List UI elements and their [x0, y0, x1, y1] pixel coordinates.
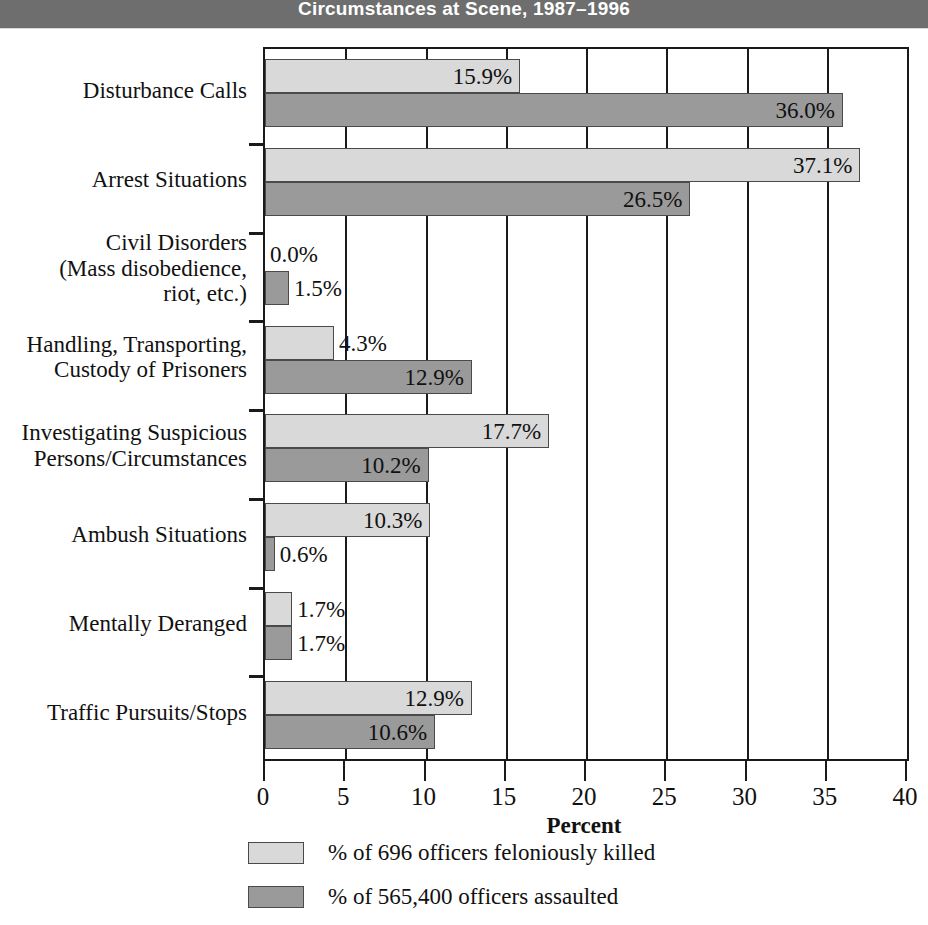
- bar-value-label: 26.5%: [623, 188, 682, 211]
- category-tick: [249, 232, 263, 235]
- category-label-column: Disturbance CallsArrest SituationsCivil …: [0, 47, 247, 757]
- x-tick-label: 15: [491, 783, 516, 811]
- category-label: Traffic Pursuits/Stops: [0, 700, 247, 726]
- category-label: Ambush Situations: [0, 522, 247, 548]
- x-tick-label: 25: [652, 783, 677, 811]
- category-tick: [249, 409, 263, 412]
- plot-area: 15.9%36.0%37.1%26.5%0.0%1.5%4.3%12.9%17.…: [263, 47, 909, 761]
- bar-value-label: 12.9%: [405, 365, 464, 388]
- chart-area: Disturbance CallsArrest SituationsCivil …: [0, 28, 928, 818]
- x-tick: [584, 759, 586, 781]
- legend-label: % of 696 officers feloniously killed: [328, 838, 655, 868]
- bar-value-label: 1.5%: [294, 276, 342, 299]
- legend-item: % of 565,400 officers assaulted: [0, 882, 928, 916]
- category-label: Handling, Transporting, Custody of Priso…: [0, 332, 247, 384]
- bar-killed: [265, 326, 334, 360]
- x-tick: [745, 759, 747, 781]
- category-tick: [249, 320, 263, 323]
- x-tick: [343, 759, 345, 781]
- x-tick-label: 30: [732, 783, 757, 811]
- bar-value-label: 36.0%: [775, 99, 834, 122]
- bar-assaulted: [265, 271, 289, 305]
- bar-value-label: 0.6%: [280, 543, 328, 566]
- bar-assaulted: [265, 626, 292, 660]
- bar-value-label: 1.7%: [297, 597, 345, 620]
- bar-assaulted: [265, 93, 843, 127]
- x-tick-label: 20: [572, 783, 597, 811]
- x-tick: [263, 759, 265, 781]
- x-tick: [424, 759, 426, 781]
- x-tick: [905, 759, 907, 781]
- legend-swatch-dark: [248, 886, 304, 908]
- category-label: Civil Disorders (Mass disobedience, riot…: [0, 230, 247, 307]
- x-axis: 0510152025303540: [263, 759, 905, 819]
- x-tick-label: 10: [411, 783, 436, 811]
- x-axis-title: Percent: [263, 813, 905, 839]
- bar-value-label: 10.3%: [363, 509, 422, 532]
- category-tick: [249, 587, 263, 590]
- x-tick-label: 0: [257, 783, 270, 811]
- category-label: Mentally Deranged: [0, 611, 247, 637]
- category-label: Investigating Suspicious Persons/Circums…: [0, 420, 247, 472]
- bar-killed: [265, 148, 860, 182]
- bar-value-label: 10.2%: [361, 454, 420, 477]
- x-tick: [504, 759, 506, 781]
- legend-label: % of 565,400 officers assaulted: [328, 882, 618, 912]
- bar-value-label: 1.7%: [297, 631, 345, 654]
- bar-assaulted: [265, 537, 275, 571]
- bar-value-label: 15.9%: [453, 65, 512, 88]
- x-tick-label: 5: [337, 783, 350, 811]
- x-tick-label: 35: [812, 783, 837, 811]
- x-tick: [664, 759, 666, 781]
- bar-killed: [265, 592, 292, 626]
- bar-value-label: 17.7%: [482, 420, 541, 443]
- category-tick: [249, 498, 263, 501]
- legend-swatch-light: [248, 842, 304, 864]
- x-tick-label: 40: [893, 783, 918, 811]
- legend-item: % of 696 officers feloniously killed: [0, 838, 928, 872]
- category-label: Arrest Situations: [0, 167, 247, 193]
- title-banner: Circumstances at Scene, 1987–1996: [0, 0, 928, 29]
- category-tick: [249, 143, 263, 146]
- category-tick: [249, 675, 263, 678]
- bar-value-label: 4.3%: [339, 331, 387, 354]
- x-tick: [825, 759, 827, 781]
- bar-value-label: 10.6%: [368, 720, 427, 743]
- bar-value-label: 0.0%: [270, 242, 318, 265]
- category-label: Disturbance Calls: [0, 78, 247, 104]
- bar-value-label: 37.1%: [793, 154, 852, 177]
- chart-title: Circumstances at Scene, 1987–1996: [298, 0, 630, 20]
- bar-value-label: 12.9%: [405, 686, 464, 709]
